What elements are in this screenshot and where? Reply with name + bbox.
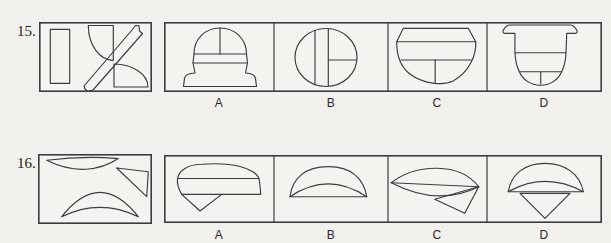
q16-option-label-b: B xyxy=(327,228,336,242)
q15-option-label-d: D xyxy=(539,96,548,110)
q15-option-label-a: A xyxy=(215,96,224,110)
q15-option-label-c: C xyxy=(432,96,441,110)
q16-option-label-c: C xyxy=(432,228,441,242)
q16-options-frame xyxy=(165,156,601,222)
q15-stimulus-figure xyxy=(39,22,152,92)
q15-stimulus-frame xyxy=(40,23,151,91)
question-16-number: 16. xyxy=(17,156,36,171)
q15-options-figure xyxy=(164,22,602,92)
q15-option-label-b: B xyxy=(327,96,336,110)
q16-options-figure xyxy=(164,155,602,223)
q16-stimulus-frame xyxy=(39,155,151,223)
q16-stimulus-figure xyxy=(38,154,152,224)
q16-option-label-d: D xyxy=(539,228,548,242)
q16-option-label-a: A xyxy=(215,228,224,242)
question-15-number: 15. xyxy=(17,24,36,39)
q15-options-frame xyxy=(165,23,601,91)
scanned-test-page: 15. xyxy=(0,0,611,243)
